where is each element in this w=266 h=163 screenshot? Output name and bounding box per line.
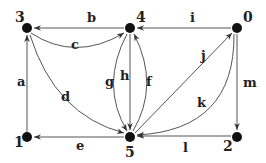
edge-label-e: e xyxy=(76,138,84,153)
edge-label-k: k xyxy=(197,95,207,110)
edge-label-i: i xyxy=(190,10,195,25)
edge-label-h: h xyxy=(120,68,130,83)
node-label-1: 1 xyxy=(14,134,24,150)
node-label-2: 2 xyxy=(223,138,233,154)
node-2 xyxy=(232,132,242,142)
edge-label-b: b xyxy=(87,10,96,25)
graph-canvas: 3 4 0 1 5 2 a b c d e f g h i j k l m xyxy=(0,0,266,163)
edge-label-a: a xyxy=(17,74,26,89)
node-label-5: 5 xyxy=(125,144,135,160)
node-label-0: 0 xyxy=(243,9,253,25)
node-label-3: 3 xyxy=(15,9,25,25)
edge-label-g: g xyxy=(105,74,114,89)
edge-label-f: f xyxy=(146,74,153,89)
node-5 xyxy=(125,132,135,142)
edge-label-j: j xyxy=(200,48,206,63)
edge-f xyxy=(133,34,147,131)
node-0 xyxy=(232,23,242,33)
graph-diagram: 3 4 0 1 5 2 a b c d e f g h i j k l m xyxy=(0,0,266,163)
node-4 xyxy=(125,23,135,33)
edge-label-l: l xyxy=(183,140,188,155)
edge-label-d: d xyxy=(61,89,70,104)
edge-label-c: c xyxy=(71,37,79,52)
edge-label-m: m xyxy=(243,75,257,90)
node-label-4: 4 xyxy=(136,9,146,25)
